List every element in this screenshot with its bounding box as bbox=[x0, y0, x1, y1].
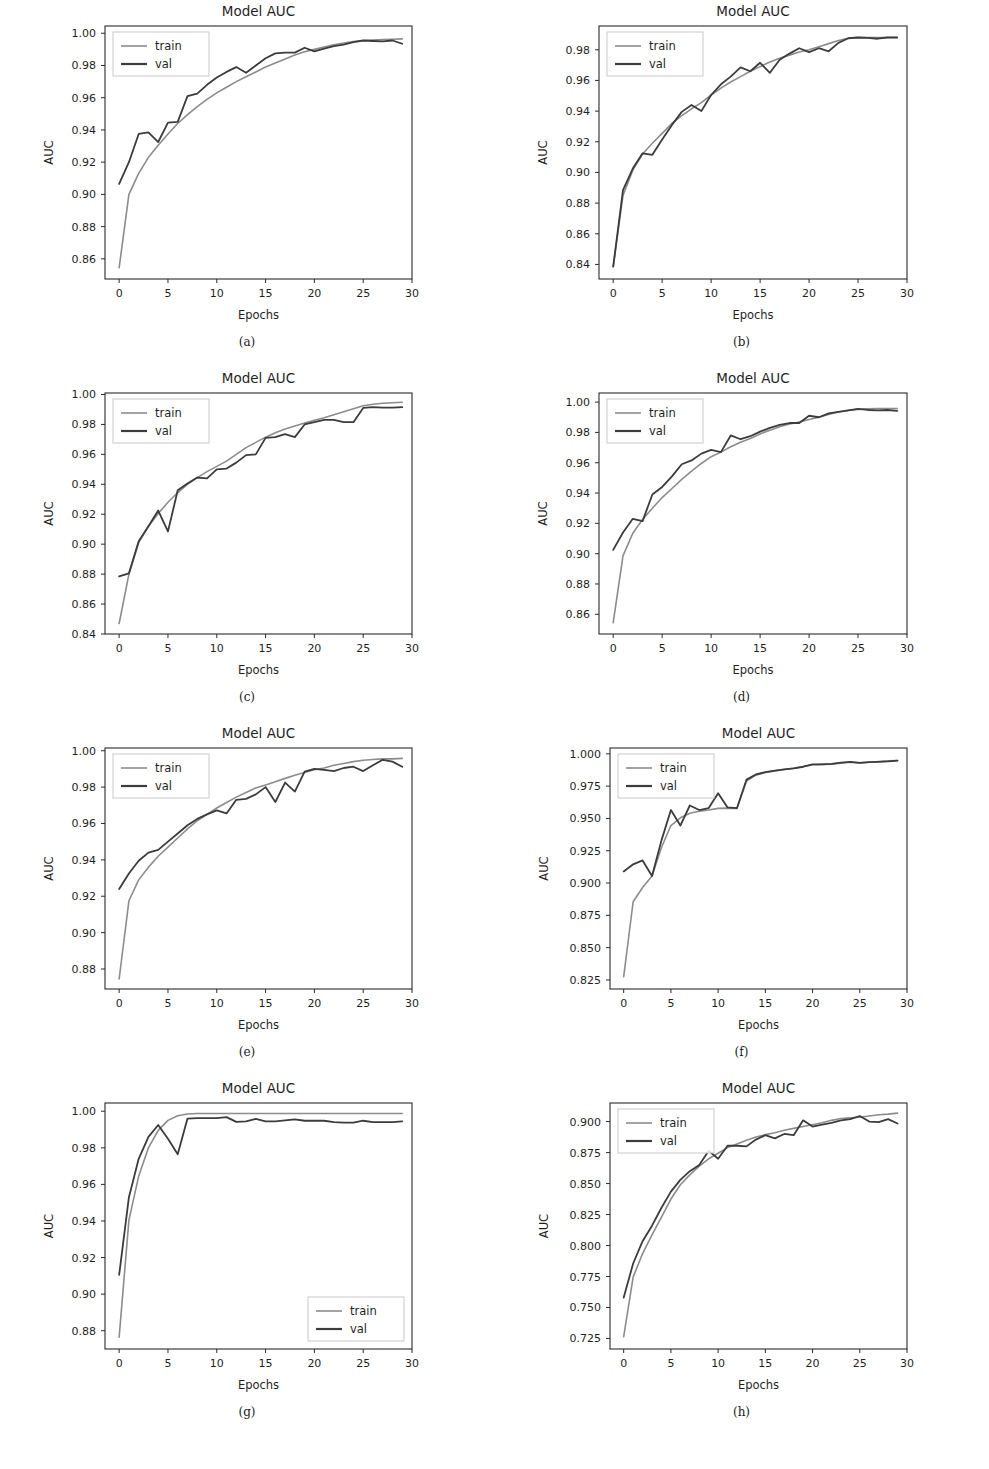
x-tick-label: 5 bbox=[164, 642, 171, 655]
y-tick-label: 0.90 bbox=[72, 1288, 97, 1301]
x-tick-label: 5 bbox=[659, 642, 666, 655]
x-tick-label: 0 bbox=[620, 997, 627, 1010]
panel-c: Model AUC0.840.860.880.900.920.940.960.9… bbox=[0, 367, 494, 722]
y-tick-label: 0.98 bbox=[566, 44, 591, 57]
y-tick-label: 1.000 bbox=[570, 748, 602, 761]
x-tick-label: 15 bbox=[259, 1357, 273, 1370]
legend: trainval bbox=[113, 399, 209, 443]
x-tick-label: 5 bbox=[164, 997, 171, 1010]
y-tick-label: 0.875 bbox=[570, 1147, 602, 1160]
x-axis-label: Epochs bbox=[738, 1018, 779, 1032]
y-tick-label: 0.92 bbox=[566, 136, 591, 149]
y-tick-label: 0.84 bbox=[566, 258, 591, 271]
x-tick-label: 20 bbox=[802, 642, 816, 655]
y-tick-label: 0.96 bbox=[72, 1178, 97, 1191]
x-tick-label: 30 bbox=[405, 997, 419, 1010]
panel-caption-e: (e) bbox=[0, 1045, 494, 1059]
y-tick-label: 0.86 bbox=[72, 253, 97, 266]
legend: trainval bbox=[308, 1297, 404, 1341]
y-tick-label: 0.88 bbox=[72, 568, 97, 581]
x-tick-label: 5 bbox=[667, 1357, 674, 1370]
legend-label-train: train bbox=[350, 1304, 377, 1318]
x-tick-label: 0 bbox=[610, 642, 617, 655]
legend-label-val: val bbox=[155, 424, 172, 438]
panel-e: Model AUC0.880.900.920.940.960.981.00051… bbox=[0, 722, 494, 1077]
figure-grid: Model AUC0.860.880.900.920.940.960.981.0… bbox=[0, 0, 989, 1469]
x-tick-label: 30 bbox=[900, 287, 914, 300]
y-tick-label: 0.88 bbox=[72, 1325, 97, 1338]
y-tick-label: 0.88 bbox=[566, 197, 591, 210]
legend-label-val: val bbox=[155, 57, 172, 71]
y-tick-label: 0.925 bbox=[570, 845, 602, 858]
y-axis-label: AUC bbox=[42, 501, 56, 525]
legend-label-train: train bbox=[155, 39, 182, 53]
panel-caption-g: (g) bbox=[0, 1405, 494, 1419]
chart-title: Model AUC bbox=[716, 3, 789, 19]
x-tick-label: 20 bbox=[802, 287, 816, 300]
x-axis-label: Epochs bbox=[732, 663, 773, 677]
x-tick-label: 15 bbox=[753, 642, 767, 655]
y-tick-label: 0.94 bbox=[566, 487, 591, 500]
legend-label-val: val bbox=[350, 1322, 367, 1336]
legend-label-train: train bbox=[649, 406, 676, 420]
y-tick-label: 0.94 bbox=[566, 105, 591, 118]
x-tick-label: 5 bbox=[659, 287, 666, 300]
x-tick-label: 30 bbox=[405, 642, 419, 655]
chart-title: Model AUC bbox=[722, 725, 795, 741]
x-tick-label: 25 bbox=[356, 642, 370, 655]
panel-caption-d: (d) bbox=[494, 690, 989, 704]
y-tick-label: 0.90 bbox=[72, 188, 97, 201]
chart-title: Model AUC bbox=[716, 370, 789, 386]
chart-title: Model AUC bbox=[222, 3, 295, 19]
panel-f: Model AUC0.8250.8500.8750.9000.9250.9500… bbox=[494, 722, 989, 1077]
x-axis-label: Epochs bbox=[238, 308, 279, 322]
chart-title: Model AUC bbox=[222, 370, 295, 386]
y-tick-label: 0.725 bbox=[570, 1332, 602, 1345]
x-axis-label: Epochs bbox=[238, 663, 279, 677]
panel-caption-b: (b) bbox=[494, 335, 989, 349]
x-tick-label: 0 bbox=[116, 287, 123, 300]
chart-b: Model AUC0.840.860.880.900.920.940.960.9… bbox=[494, 0, 989, 367]
y-tick-label: 0.96 bbox=[566, 74, 591, 87]
x-tick-label: 25 bbox=[851, 642, 865, 655]
y-tick-label: 0.94 bbox=[72, 854, 97, 867]
y-tick-label: 1.00 bbox=[566, 396, 591, 409]
y-axis-label: AUC bbox=[536, 501, 550, 525]
y-tick-label: 0.84 bbox=[72, 628, 97, 641]
y-tick-label: 1.00 bbox=[72, 1105, 97, 1118]
y-axis-label: AUC bbox=[42, 1214, 56, 1238]
x-tick-label: 30 bbox=[405, 1357, 419, 1370]
y-tick-label: 0.90 bbox=[566, 166, 591, 179]
y-tick-label: 0.92 bbox=[72, 508, 97, 521]
y-tick-label: 0.94 bbox=[72, 124, 97, 137]
x-tick-label: 5 bbox=[667, 997, 674, 1010]
panel-b: Model AUC0.840.860.880.900.920.940.960.9… bbox=[494, 0, 989, 367]
y-tick-label: 0.98 bbox=[72, 59, 97, 72]
y-tick-label: 1.00 bbox=[72, 388, 97, 401]
chart-title: Model AUC bbox=[222, 1080, 295, 1096]
legend-label-train: train bbox=[660, 761, 687, 775]
y-tick-label: 0.825 bbox=[570, 1209, 602, 1222]
x-tick-label: 15 bbox=[753, 287, 767, 300]
y-tick-label: 0.92 bbox=[72, 156, 97, 169]
chart-h: Model AUC0.7250.7500.7750.8000.8250.8500… bbox=[494, 1077, 989, 1437]
chart-title: Model AUC bbox=[722, 1080, 795, 1096]
x-tick-label: 25 bbox=[356, 1357, 370, 1370]
x-tick-label: 25 bbox=[851, 287, 865, 300]
x-tick-label: 15 bbox=[259, 287, 273, 300]
panel-g: Model AUC0.880.900.920.940.960.981.00051… bbox=[0, 1077, 494, 1437]
panel-caption-c: (c) bbox=[0, 690, 494, 704]
y-tick-label: 0.96 bbox=[72, 817, 97, 830]
y-tick-label: 1.00 bbox=[72, 745, 97, 758]
y-axis-label: AUC bbox=[42, 856, 56, 880]
x-tick-label: 20 bbox=[307, 642, 321, 655]
y-tick-label: 0.86 bbox=[566, 608, 591, 621]
y-tick-label: 0.90 bbox=[72, 538, 97, 551]
x-tick-label: 30 bbox=[900, 642, 914, 655]
x-axis-label: Epochs bbox=[238, 1378, 279, 1392]
y-tick-label: 0.88 bbox=[72, 221, 97, 234]
y-tick-label: 0.90 bbox=[566, 548, 591, 561]
x-tick-label: 20 bbox=[806, 997, 820, 1010]
y-tick-label: 0.96 bbox=[72, 92, 97, 105]
y-tick-label: 0.825 bbox=[570, 974, 602, 987]
